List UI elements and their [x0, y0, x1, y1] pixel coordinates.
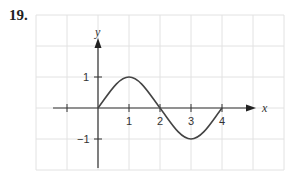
x-tick-label-3: 3: [188, 115, 194, 127]
x-tick-label-4: 4: [219, 115, 225, 127]
graph: x y 1 2 3 4 1 −1: [0, 0, 299, 172]
y-tick-label-1: 1: [83, 71, 89, 83]
x-tick-label-2: 2: [157, 115, 163, 127]
x-axis-arrow-icon: [246, 105, 256, 112]
y-axis-arrow-icon: [95, 38, 102, 48]
x-axis-label: x: [261, 101, 268, 115]
y-tick-label-neg1: −1: [77, 133, 90, 145]
x-tick-label-1: 1: [126, 115, 132, 127]
y-axis-label: y: [94, 25, 101, 39]
x-axis: [53, 104, 256, 112]
grid: [36, 15, 284, 170]
